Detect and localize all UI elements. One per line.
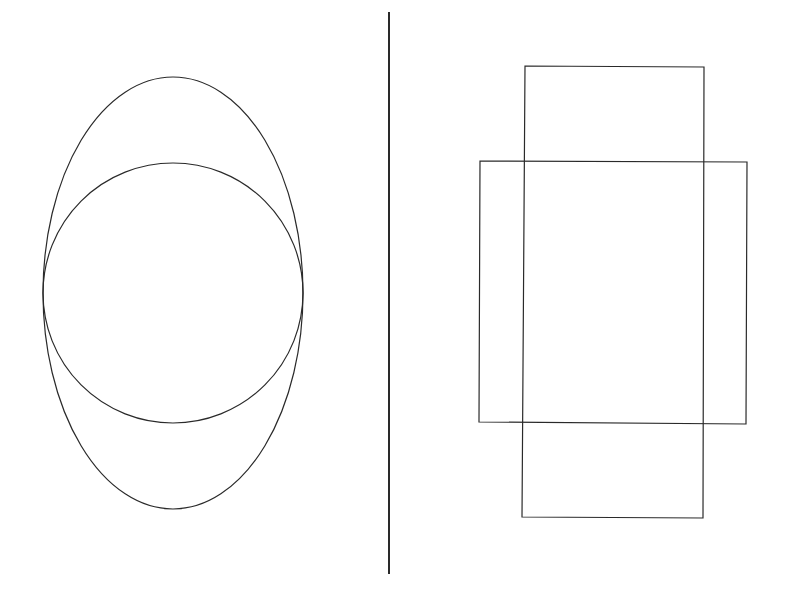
left-panel	[43, 77, 303, 509]
diagram-canvas	[0, 0, 794, 603]
tall-rectangle	[522, 66, 704, 518]
wide-rectangle	[479, 161, 747, 424]
tall-ellipse	[43, 77, 303, 509]
right-panel	[479, 66, 747, 518]
inscribed-circle	[43, 163, 303, 423]
